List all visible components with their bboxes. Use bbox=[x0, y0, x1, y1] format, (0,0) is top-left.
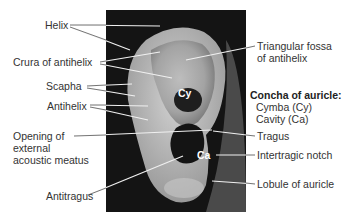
label-intertragic-notch: Intertragic notch bbox=[257, 149, 332, 161]
label-opening-line3: acoustic meatus bbox=[13, 154, 89, 166]
label-opening-line1: Opening of bbox=[13, 130, 64, 142]
label-crura-of-antihelix: Crura of antihelix bbox=[13, 56, 92, 68]
ear-anatomy-figure: Cy Ca bbox=[0, 0, 347, 222]
label-opening-line2: external bbox=[13, 142, 50, 154]
label-helix: Helix bbox=[45, 19, 68, 31]
label-cavity: Cavity (Ca) bbox=[256, 113, 309, 125]
label-tragus: Tragus bbox=[257, 130, 289, 142]
label-lobule-of-auricle: Lobule of auricle bbox=[257, 178, 334, 190]
label-concha-of-auricle: Concha of auricle: bbox=[250, 89, 342, 101]
label-triangular-fossa-line1: Triangular fossa bbox=[257, 40, 332, 52]
label-cymba: Cymba (Cy) bbox=[256, 101, 312, 113]
label-antihelix: Antihelix bbox=[47, 100, 87, 112]
label-triangular-fossa-line2: of antihelix bbox=[257, 52, 307, 64]
label-scapha: Scapha bbox=[46, 80, 82, 92]
label-antitragus: Antitragus bbox=[46, 190, 93, 202]
